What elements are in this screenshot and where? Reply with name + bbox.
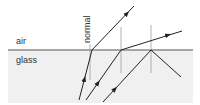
air-label: air	[16, 36, 26, 46]
ray-1-refracted	[92, 6, 134, 50]
ray-2-refracted	[121, 31, 182, 50]
normal-label: normal	[82, 15, 92, 43]
glass-label: glass	[16, 55, 38, 65]
refraction-diagram: air glass normal	[0, 0, 200, 105]
